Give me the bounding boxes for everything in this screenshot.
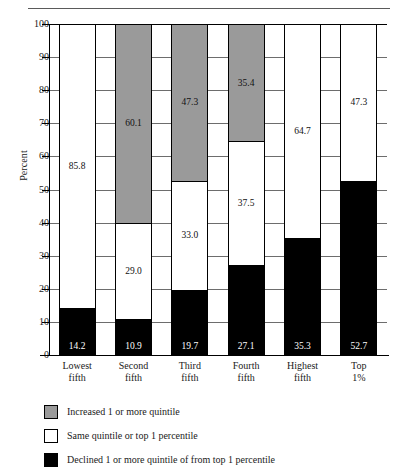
legend-item-1[interactable]: Increased 1 or more quintile: [44, 404, 180, 420]
bar-segment-declined[interactable]: 35.3: [284, 238, 321, 355]
bar-value-label: 47.3: [341, 98, 376, 108]
bar-segment-declined[interactable]: 27.1: [228, 265, 265, 355]
bar-3[interactable]: 19.733.047.3: [171, 24, 208, 355]
y-tick-mark: [42, 57, 49, 58]
y-tick-mark: [42, 223, 49, 224]
y-tick-mark: [42, 256, 49, 257]
bar-segment-declined[interactable]: 19.7: [171, 290, 208, 355]
bar-value-label: 52.7: [341, 342, 376, 352]
bar-5[interactable]: 35.364.7: [284, 24, 321, 355]
x-axis-label-line: fifth: [104, 372, 164, 384]
x-axis-label-1: Lowestfifth: [47, 360, 107, 384]
bar-segment-same[interactable]: 37.5: [228, 141, 265, 265]
bar-segment-declined[interactable]: 52.7: [340, 181, 377, 355]
bar-value-label: 60.1: [116, 119, 151, 129]
chart-legend: Increased 1 or more quintileSame quintil…: [0, 398, 398, 468]
x-axis-label-line: fifth: [47, 372, 107, 384]
bar-1[interactable]: 14.285.8: [59, 24, 96, 355]
x-axis-baseline: [40, 355, 389, 356]
black-swatch: [44, 453, 58, 467]
x-axis-label-line: fifth: [160, 372, 220, 384]
white-swatch: [44, 429, 58, 443]
legend-label: Increased 1 or more quintile: [67, 405, 180, 419]
y-tick-mark: [42, 289, 49, 290]
x-axis-label-line: Second: [104, 360, 164, 372]
x-axis-label-line: Third: [160, 360, 220, 372]
y-tick-mark: [42, 90, 49, 91]
bar-segment-same[interactable]: 64.7: [284, 24, 321, 238]
x-axis-label-line: Highest: [273, 360, 333, 372]
x-axis-label-4: Fourthfifth: [216, 360, 276, 384]
bar-2[interactable]: 10.929.060.1: [115, 24, 152, 355]
x-axis-label-5: Highestfifth: [273, 360, 333, 384]
bar-value-label: 85.8: [60, 162, 95, 172]
x-axis-label-line: Fourth: [216, 360, 276, 372]
bar-segment-declined[interactable]: 14.2: [59, 308, 96, 355]
legend-label: Same quintile or top 1 percentile: [67, 429, 198, 443]
y-tick-mark: [42, 123, 49, 124]
x-axis-label-line: fifth: [273, 372, 333, 384]
x-axis-label-6: Top1%: [329, 360, 389, 384]
bar-value-label: 29.0: [116, 267, 151, 277]
y-tick-mark: [42, 156, 49, 157]
bar-value-label: 19.7: [172, 342, 207, 352]
bar-segment-declined[interactable]: 10.9: [115, 319, 152, 355]
bar-segment-increased[interactable]: 35.4: [228, 24, 265, 141]
gray-swatch: [44, 405, 58, 419]
y-tick-mark: [42, 190, 49, 191]
y-tick-mark: [42, 322, 49, 323]
chart-figure: Percent 1009080706050403020100 14.285.81…: [0, 0, 398, 392]
bar-value-label: 37.5: [229, 199, 264, 209]
bar-value-label: 64.7: [285, 127, 320, 137]
legend-item-3[interactable]: Declined 1 or more quintile of from top …: [44, 452, 275, 468]
bar-value-label: 33.0: [172, 231, 207, 241]
bar-6[interactable]: 52.747.3: [340, 24, 377, 355]
bar-segment-same[interactable]: 85.8: [59, 24, 96, 308]
legend-item-2[interactable]: Same quintile or top 1 percentile: [44, 428, 198, 444]
y-tick-mark: [42, 24, 49, 25]
legend-label: Declined 1 or more quintile of from top …: [67, 453, 275, 467]
bar-segment-increased[interactable]: 47.3: [171, 24, 208, 181]
bar-value-label: 47.3: [172, 98, 207, 108]
bar-value-label: 14.2: [60, 342, 95, 352]
bar-4[interactable]: 27.137.535.4: [228, 24, 265, 355]
bar-segment-same[interactable]: 29.0: [115, 223, 152, 319]
bar-segment-increased[interactable]: 60.1: [115, 24, 152, 223]
x-axis-label-line: Lowest: [47, 360, 107, 372]
x-axis-label-line: Top: [329, 360, 389, 372]
x-axis-labels: LowestfifthSecondfifthThirdfifthFourthfi…: [49, 360, 387, 390]
bar-value-label: 10.9: [116, 342, 151, 352]
bar-segment-same[interactable]: 47.3: [340, 24, 377, 181]
x-axis-label-line: fifth: [216, 372, 276, 384]
bar-value-label: 35.4: [229, 79, 264, 89]
bar-value-label: 27.1: [229, 342, 264, 352]
x-axis-label-line: 1%: [329, 372, 389, 384]
bar-value-label: 35.3: [285, 342, 320, 352]
bar-segment-same[interactable]: 33.0: [171, 181, 208, 290]
x-axis-label-3: Thirdfifth: [160, 360, 220, 384]
bar-group: 14.285.810.929.060.119.733.047.327.137.5…: [49, 24, 387, 355]
x-axis-label-2: Secondfifth: [104, 360, 164, 384]
